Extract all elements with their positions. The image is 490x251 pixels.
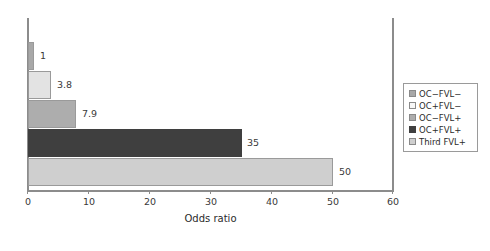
- bar-third-fvl-pos: [28, 158, 333, 186]
- bars-group: 1 3.8 7.9 35 50: [28, 42, 394, 190]
- bar-value-label: 3.8: [57, 79, 72, 90]
- legend-item: OC−FVL−: [409, 88, 473, 99]
- legend-swatch-icon: [409, 126, 416, 133]
- x-tick: [332, 190, 333, 194]
- legend-item: Third FVL+: [409, 136, 473, 147]
- legend-item-label: OC−FVL−: [419, 89, 461, 99]
- x-tick-label: 40: [260, 196, 284, 208]
- bar-value-label: 7.9: [82, 108, 97, 119]
- x-tick-label: 60: [381, 196, 405, 208]
- bar-oc-pos-fvl-pos: [28, 129, 242, 157]
- x-tick-label: 50: [321, 196, 345, 208]
- bar-oc-neg-fvl-pos: [28, 100, 76, 128]
- legend-swatch-icon: [409, 90, 416, 97]
- legend-item-label: OC+FVL−: [419, 101, 461, 111]
- x-tick: [210, 190, 211, 194]
- legend-item-label: Third FVL+: [419, 137, 466, 147]
- x-tick: [149, 190, 150, 194]
- legend-swatch-icon: [409, 114, 416, 121]
- legend-swatch-icon: [409, 138, 416, 145]
- x-tick-label: 20: [138, 196, 162, 208]
- x-tick: [271, 190, 272, 194]
- legend-item: OC+FVL+: [409, 124, 473, 135]
- legend: OC−FVL− OC+FVL− OC−FVL+ OC+FVL+ Third FV…: [403, 83, 478, 152]
- legend-item-label: OC−FVL+: [419, 113, 461, 123]
- odds-ratio-bar-chart: 1 3.8 7.9 35 50 0 10 20 30 40 50 60 Odds…: [0, 0, 490, 251]
- x-tick-label: 0: [16, 196, 40, 208]
- x-axis-title: Odds ratio: [27, 213, 394, 224]
- x-tick-label: 30: [199, 196, 223, 208]
- bar-value-label: 35: [247, 137, 259, 148]
- legend-item: OC−FVL+: [409, 112, 473, 123]
- legend-item: OC+FVL−: [409, 100, 473, 111]
- x-tick-label: 10: [77, 196, 101, 208]
- bar-oc-neg-fvl-neg: [28, 42, 34, 70]
- legend-swatch-icon: [409, 102, 416, 109]
- x-tick: [392, 190, 393, 194]
- x-tick: [88, 190, 89, 194]
- x-tick: [27, 190, 28, 194]
- bar-value-label: 1: [40, 50, 46, 61]
- bar-value-label: 50: [339, 166, 351, 177]
- bar-oc-pos-fvl-neg: [28, 71, 51, 99]
- legend-item-label: OC+FVL+: [419, 125, 461, 135]
